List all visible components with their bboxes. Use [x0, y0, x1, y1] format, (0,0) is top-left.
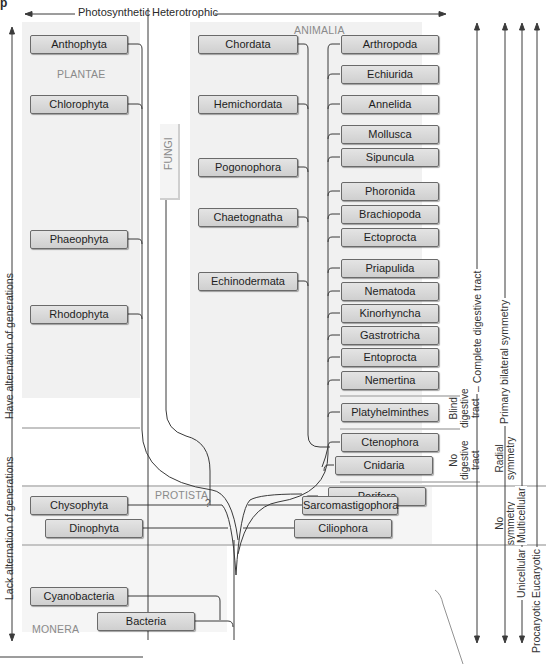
taxon-dinophyta[interactable]: Dinophyta — [45, 519, 143, 538]
taxon-chordata[interactable]: Chordata — [198, 35, 298, 54]
taxon-phoronida[interactable]: Phoronida — [341, 182, 439, 201]
taxon-phaeophyta[interactable]: Phaeophyta — [30, 230, 128, 249]
taxon-hemichordata[interactable]: Hemichordata — [198, 95, 298, 114]
kingdom-fungi: FUNGI — [162, 137, 174, 170]
axis-blind-digestive: Blind digestive tract — [448, 389, 481, 428]
axis-have-alternation: Have alternation of generations — [3, 273, 15, 419]
taxon-echinodermata[interactable]: Echinodermata — [198, 272, 298, 291]
taxon-platyhelminthes[interactable]: Platyhelminthes — [341, 403, 439, 422]
axis-no-symmetry: No symmetry — [494, 502, 516, 545]
taxon-sarcomastigophora[interactable]: Sarcomastigophora — [302, 496, 398, 515]
taxon-chaetognatha[interactable]: Chaetognatha — [198, 208, 298, 227]
axis-primary-bilateral: Primary bilateral symmetry — [498, 298, 510, 426]
axis-radial-symmetry: Radial symmetry — [494, 437, 516, 480]
taxon-ciliophora[interactable]: Ciliophora — [294, 519, 392, 538]
taxon-entoprocta[interactable]: Entoprocta — [341, 348, 439, 367]
taxon-pogonophora[interactable]: Pogonophora — [198, 158, 298, 177]
taxon-gastrotricha[interactable]: Gastrotricha — [341, 326, 439, 345]
taxon-priapulida[interactable]: Priapulida — [341, 259, 439, 278]
taxon-cyanobacteria[interactable]: Cyanobacteria — [30, 587, 128, 606]
taxon-sipuncula[interactable]: Sipuncula — [341, 148, 439, 167]
axis-complete-digestive: – Complete digestive tract — [471, 269, 483, 394]
taxon-anthophyta[interactable]: Anthophyta — [30, 35, 128, 54]
unknown-origin-marker: ? — [205, 498, 211, 509]
taxon-cnidaria[interactable]: Cnidaria — [335, 456, 433, 475]
heterotrophic-label: Heterotrophic — [152, 6, 218, 18]
axis-unicellular: Unicellular — [515, 547, 527, 600]
axis-no-digestive: No digestive tract — [448, 441, 481, 480]
taxon-kinorhyncha[interactable]: Kinorhyncha — [341, 304, 439, 323]
taxon-mollusca[interactable]: Mollusca — [341, 125, 439, 144]
kingdom-animalia: ANIMALIA — [294, 24, 345, 36]
taxon-chlorophyta[interactable]: Chlorophyta — [30, 95, 128, 114]
axis-multicellular: Multicellular — [515, 486, 527, 545]
kingdom-protista: PROTISTA — [155, 489, 208, 501]
axis-lack-alternation: Lack alternation of generations — [3, 456, 15, 600]
taxon-arthropoda[interactable]: Arthropoda — [341, 35, 439, 54]
axis-eucaryotic: Eucaryotic — [530, 547, 542, 600]
kingdom-monera: MONERA — [32, 623, 79, 635]
taxon-nemertina[interactable]: Nemertina — [341, 371, 439, 390]
corner-label: p — [0, 0, 7, 10]
taxon-bacteria[interactable]: Bacteria — [97, 612, 195, 631]
kingdom-fungi-box: FUNGI — [160, 124, 180, 200]
taxon-annelida[interactable]: Annelida — [341, 95, 439, 114]
photosynthetic-label: Photosynthetic — [78, 6, 150, 18]
taxon-chysophyta[interactable]: Chysophyta — [30, 496, 128, 515]
taxon-ectoprocta[interactable]: Ectoprocta — [341, 228, 439, 247]
taxon-brachiopoda[interactable]: Brachiopoda — [341, 205, 439, 224]
taxon-ctenophora[interactable]: Ctenophora — [341, 433, 439, 452]
taxon-echiurida[interactable]: Echiurida — [341, 65, 439, 84]
taxon-nematoda[interactable]: Nematoda — [341, 282, 439, 301]
kingdom-plantae: PLANTAE — [57, 68, 105, 80]
taxon-rhodophyta[interactable]: Rhodophyta — [30, 305, 128, 324]
axis-procaryotic: Procaryotic — [530, 598, 542, 655]
